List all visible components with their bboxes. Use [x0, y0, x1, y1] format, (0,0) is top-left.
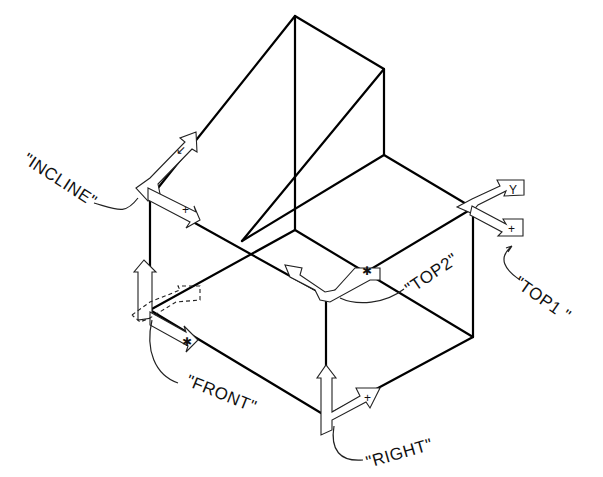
incline-diagonal-edge: [242, 69, 384, 241]
incline-x-glyph: +: [182, 203, 189, 217]
right-x-glyph: +: [364, 391, 371, 405]
top1-x-glyph: +: [508, 222, 515, 236]
label-right: "RIGHT": [364, 435, 435, 472]
front-left-receding-edge: [150, 230, 295, 310]
ucs-icon-right[interactable]: +: [317, 365, 380, 435]
front-origin-glyph: ✱: [182, 335, 192, 349]
top-back-edge: [295, 16, 384, 69]
top2-origin-glyph: ✱: [362, 264, 372, 278]
inner-long-edge: [295, 230, 473, 337]
top1-y-glyph: Y: [509, 183, 517, 197]
incline-left-edge: [150, 16, 295, 198]
label-top1: "TOP1 ": [511, 273, 575, 325]
label-front: "FRONT": [184, 371, 260, 416]
label-top2: "TOP2": [402, 249, 462, 298]
incline-leader: [94, 198, 138, 210]
right-leader: [333, 426, 363, 460]
ucs-icon-front[interactable]: ✱: [132, 260, 200, 352]
top1-leader: [504, 246, 520, 280]
incline-x-arrow: [148, 188, 200, 228]
ucs-icon-incline[interactable]: + ↙: [136, 132, 200, 228]
step-back-edge: [242, 155, 384, 241]
isometric-drawing: + ↙ Y + ✱ ✱ + "INCLINE" "TOP1 " "TOP2" "…: [0, 0, 603, 477]
top1-x-arrow: [470, 206, 523, 236]
incline-y-glyph: ↙: [176, 143, 186, 157]
label-incline: "INCLINE": [20, 149, 100, 210]
step-right-edge: [384, 155, 473, 208]
incline-y-arrow: [136, 132, 197, 201]
ucs-icon-top1[interactable]: Y +: [457, 180, 524, 236]
